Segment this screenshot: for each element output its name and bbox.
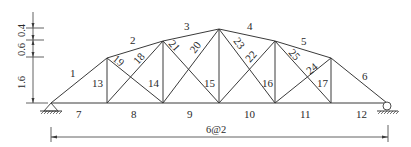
dim-label-1.6: 1.6 xyxy=(16,76,27,89)
member-23 xyxy=(219,29,275,103)
label-19: 19 xyxy=(111,52,127,69)
label-11: 11 xyxy=(300,108,311,120)
label-7: 7 xyxy=(76,108,82,120)
label-4: 4 xyxy=(247,20,253,32)
label-9: 9 xyxy=(187,108,193,120)
member-25 xyxy=(275,41,331,103)
member-18 xyxy=(107,41,163,103)
pin-support-icon xyxy=(40,103,62,114)
label-10: 10 xyxy=(244,108,256,120)
label-24: 24 xyxy=(304,60,320,77)
dim-label-span: 6@2 xyxy=(206,124,226,135)
span-dimension: 6@2 xyxy=(51,124,388,142)
roller-support-icon xyxy=(377,102,399,114)
label-14: 14 xyxy=(148,77,160,89)
label-8: 8 xyxy=(131,108,137,120)
dim-label-0.6: 0.6 xyxy=(16,43,27,56)
truss-diagram: 0.4 0.6 1.6 6@2 1 2 3 4 5 6 7 8 9 10 11 … xyxy=(0,0,411,147)
label-2: 2 xyxy=(130,34,136,46)
label-15: 15 xyxy=(204,77,216,89)
label-1: 1 xyxy=(70,67,76,79)
label-5: 5 xyxy=(301,35,307,47)
label-17: 17 xyxy=(317,77,329,89)
height-dimension: 0.4 0.6 1.6 xyxy=(16,12,48,103)
dim-label-0.4: 0.4 xyxy=(16,23,27,37)
label-13: 13 xyxy=(92,77,104,89)
member-3 xyxy=(163,29,219,41)
label-6: 6 xyxy=(362,70,368,82)
label-3: 3 xyxy=(184,20,190,32)
label-18: 18 xyxy=(131,50,148,67)
label-12: 12 xyxy=(356,108,367,120)
label-16: 16 xyxy=(262,77,274,89)
member-6 xyxy=(331,58,387,103)
